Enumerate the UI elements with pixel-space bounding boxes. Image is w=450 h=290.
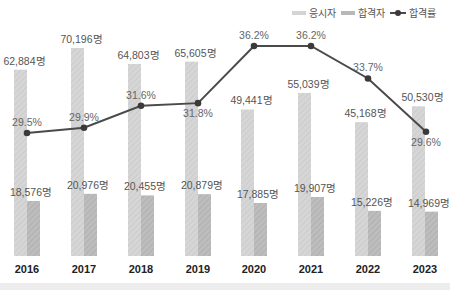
label-applicants: 55,039명 [287, 78, 329, 90]
label-rate: 31.8% [183, 107, 213, 119]
bar-passed [368, 211, 381, 256]
bar-applicants [355, 122, 368, 256]
rate-marker-icon [24, 130, 31, 137]
rate-marker-icon [251, 43, 258, 50]
label-applicants: 65,605명 [174, 47, 216, 59]
label-rate: 36.2% [239, 29, 269, 41]
label-passed: 18,576명 [10, 186, 52, 198]
bar-passed [84, 194, 97, 256]
label-applicants: 49,441명 [230, 94, 272, 106]
label-rate: 31.6% [126, 89, 156, 101]
x-tick-label: 2016 [15, 263, 39, 275]
x-tick-label: 2017 [72, 263, 96, 275]
rate-marker-icon [138, 102, 145, 109]
bottom-band [0, 283, 450, 290]
rate-marker-icon [81, 125, 88, 132]
rate-marker-icon [365, 75, 372, 82]
label-applicants: 62,884명 [3, 55, 45, 67]
bar-applicants [241, 109, 254, 256]
x-tick-label: 2020 [242, 263, 266, 275]
bar-applicants [185, 62, 198, 256]
label-rate: 29.9% [69, 111, 99, 123]
label-passed: 14,969명 [408, 197, 450, 209]
combo-chart: 62,884명18,576명201670,196명20,976명201764,8… [0, 0, 450, 290]
label-rate: 29.6% [411, 136, 441, 148]
bar-passed [27, 201, 40, 256]
x-tick-label: 2019 [186, 263, 210, 275]
bar-passed [254, 203, 267, 256]
label-rate: 36.2% [296, 29, 326, 41]
label-rate: 33.7% [353, 61, 383, 73]
label-passed: 20,976명 [67, 179, 109, 191]
label-passed: 19,907명 [294, 182, 336, 194]
x-tick-label: 2022 [356, 263, 380, 275]
label-applicants: 64,803명 [117, 49, 159, 61]
label-applicants: 50,530명 [401, 91, 443, 103]
rate-marker-icon [423, 128, 430, 135]
bar-applicants [298, 93, 311, 256]
rate-marker-icon [308, 43, 315, 50]
bar-passed [425, 212, 438, 256]
label-passed: 20,455명 [124, 180, 166, 192]
label-layer: 62,884명18,576명201670,196명20,976명201764,8… [3, 29, 450, 275]
bar-passed [198, 194, 211, 256]
bar-applicants [14, 70, 27, 256]
label-applicants: 45,168명 [344, 107, 386, 119]
label-rate: 29.5% [12, 116, 42, 128]
bar-layer [14, 48, 438, 256]
label-passed: 15,226명 [351, 196, 393, 208]
bar-passed [311, 197, 324, 256]
x-tick-label: 2021 [299, 263, 323, 275]
rate-marker-icon [195, 100, 202, 107]
label-applicants: 70,196명 [60, 33, 102, 45]
label-passed: 17,885명 [237, 188, 279, 200]
label-passed: 20,879명 [181, 179, 223, 191]
bar-applicants [71, 48, 84, 256]
bar-passed [141, 195, 154, 256]
x-tick-label: 2018 [129, 263, 153, 275]
x-tick-label: 2023 [413, 263, 437, 275]
